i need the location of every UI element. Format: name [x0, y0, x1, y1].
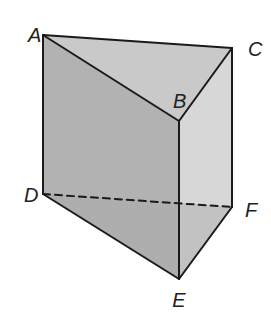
vertex-label-b: B	[173, 90, 186, 112]
vertex-label-d: D	[24, 184, 38, 206]
vertex-label-f: F	[245, 199, 259, 221]
face-bottom-shading	[43, 194, 232, 279]
vertex-label-e: E	[172, 289, 186, 311]
vertex-label-c: C	[248, 38, 263, 60]
vertex-label-a: A	[27, 24, 41, 46]
prism-diagram: A B C D E F	[0, 0, 271, 319]
triangular-prism-figure: A B C D E F	[0, 0, 271, 319]
